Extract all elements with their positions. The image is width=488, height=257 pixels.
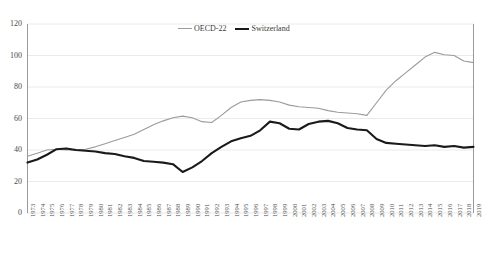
x-tick-label: 1985	[146, 203, 153, 216]
x-tick-label: 2013	[418, 203, 425, 216]
x-tick-label: 2016	[447, 203, 454, 216]
x-tick-label: 2017	[457, 203, 464, 216]
series-line-oecd-22	[28, 52, 474, 156]
x-tick-label: 1989	[185, 203, 192, 216]
x-tick-label: 2000	[292, 203, 299, 216]
x-tick-label: 1973	[30, 203, 37, 216]
x-tick-label: 2003	[321, 203, 328, 216]
x-tick-label: 1995	[243, 203, 250, 216]
x-tick-label: 1991	[204, 203, 211, 216]
x-tick-label: 2011	[398, 204, 405, 217]
x-tick-label: 1993	[224, 203, 231, 216]
x-tick-label: 2019	[476, 203, 483, 216]
legend-label-switzerland: Switzerland	[251, 24, 289, 33]
x-tick-label: 2006	[350, 203, 357, 216]
x-tick-label: 1990	[195, 203, 202, 216]
y-tick-label: 120	[0, 20, 22, 28]
x-tick-label: 2005	[340, 203, 347, 216]
y-tick-label: 100	[0, 52, 22, 60]
x-tick-label: 2012	[408, 203, 415, 216]
x-tick-label: 2014	[427, 203, 434, 216]
x-tick-label: 1976	[59, 203, 66, 216]
x-tick-label: 1999	[282, 203, 289, 216]
x-tick-label: 2004	[330, 203, 337, 216]
x-tick-label: 2001	[301, 203, 308, 216]
x-tick-label: 1979	[88, 203, 95, 216]
x-tick-label: 1983	[127, 203, 134, 216]
y-tick-label: 0	[0, 209, 22, 217]
x-tick-label: 1986	[156, 203, 163, 216]
legend-entry-oecd: OECD-22	[178, 24, 226, 33]
x-tick-label: 2018	[466, 203, 473, 216]
x-tick-label: 1978	[78, 203, 85, 216]
x-tick-label: 2015	[437, 203, 444, 216]
x-tick-label: 1982	[117, 203, 124, 216]
x-tick-label: 2002	[311, 203, 318, 216]
legend-entry-switzerland: Switzerland	[235, 24, 289, 33]
gridlines	[28, 24, 474, 213]
x-tick-label: 1996	[253, 203, 260, 216]
x-tick-label: 1975	[49, 203, 56, 216]
x-tick-label: 1987	[166, 203, 173, 216]
y-tick-label: 20	[0, 178, 22, 186]
series-line-switzerland	[28, 121, 474, 172]
x-tick-label: 1984	[137, 203, 144, 216]
series-lines	[28, 52, 474, 172]
y-tick-label: 40	[0, 146, 22, 154]
chart-legend: OECD-22 Switzerland	[178, 24, 290, 33]
x-tick-label: 2007	[360, 203, 367, 216]
x-tick-label: 1997	[263, 203, 270, 216]
y-tick-label: 60	[0, 115, 22, 123]
x-tick-label: 1994	[234, 203, 241, 216]
x-tick-label: 2009	[379, 203, 386, 216]
x-tick-label: 2008	[369, 203, 376, 216]
y-tick-label: 80	[0, 83, 22, 91]
x-tick-label: 1981	[107, 203, 114, 216]
line-chart: 020406080100120 197319741975197619771978…	[0, 0, 488, 257]
legend-line-icon-switzerland	[235, 28, 249, 30]
x-tick-label: 1974	[40, 203, 47, 216]
x-tick-label: 1992	[214, 203, 221, 216]
legend-line-icon-oecd	[178, 28, 192, 29]
x-tick-label: 1988	[175, 203, 182, 216]
x-tick-label: 1980	[98, 203, 105, 216]
x-tick-label: 1977	[69, 203, 76, 216]
x-tick-label: 2010	[389, 203, 396, 216]
legend-label-oecd: OECD-22	[194, 24, 226, 33]
plot-area	[0, 0, 488, 257]
x-tick-label: 1998	[272, 203, 279, 216]
